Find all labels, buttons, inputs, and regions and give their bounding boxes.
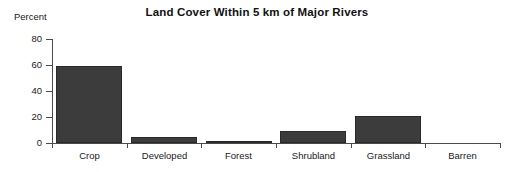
y-axis-tick-label: 60 — [2, 60, 42, 70]
y-axis-unit-label: Percent — [14, 11, 47, 22]
y-axis-tick-label: 0 — [2, 138, 42, 148]
bar-crop — [56, 66, 122, 143]
x-axis-tick-mark — [52, 143, 53, 148]
x-axis-tick-mark — [201, 143, 202, 148]
bar-developed — [131, 137, 197, 144]
bar-chart: Land Cover Within 5 km of Major Rivers P… — [0, 0, 514, 172]
y-axis-tick-mark — [46, 39, 53, 40]
x-axis-label-shrubland: Shrubland — [276, 150, 351, 161]
bar-shrubland — [280, 131, 346, 143]
x-axis-tick-mark — [425, 143, 426, 148]
y-axis-tick-mark — [46, 65, 53, 66]
bar-grassland — [355, 116, 421, 143]
bar-forest — [206, 141, 272, 143]
x-axis-tick-mark — [351, 143, 352, 148]
y-axis-tick-label: 40 — [2, 86, 42, 96]
chart-title: Land Cover Within 5 km of Major Rivers — [0, 6, 514, 18]
x-axis-label-grassland: Grassland — [351, 150, 426, 161]
x-axis-label-forest: Forest — [201, 150, 276, 161]
y-axis-tick-mark — [46, 91, 53, 92]
x-axis-tick-mark — [276, 143, 277, 148]
x-axis-label-barren: Barren — [425, 150, 500, 161]
y-axis-tick-mark — [46, 117, 53, 118]
x-axis-tick-mark — [500, 143, 501, 148]
y-axis-tick-label: 20 — [2, 112, 42, 122]
x-axis-label-developed: Developed — [127, 150, 202, 161]
y-axis-tick-label: 80 — [2, 34, 42, 44]
x-axis-tick-mark — [127, 143, 128, 148]
x-axis-label-crop: Crop — [52, 150, 127, 161]
